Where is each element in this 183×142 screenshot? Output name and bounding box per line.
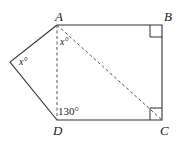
vertex-label-a: A [55, 10, 63, 23]
vertex-label-d: D [53, 124, 62, 137]
angle-label-at-d: 130° [58, 106, 79, 117]
pentagon-outline [10, 25, 162, 120]
angle-label-at-a: x° [60, 37, 68, 47]
right-angle-mark-b [150, 25, 162, 37]
vertex-label-c: C [160, 124, 169, 137]
vertex-label-b: B [164, 10, 172, 23]
figure-drawing [0, 0, 183, 142]
geometry-figure: A B C D x° x° 130° [0, 0, 183, 142]
angle-label-left-vertex: x° [19, 57, 27, 67]
